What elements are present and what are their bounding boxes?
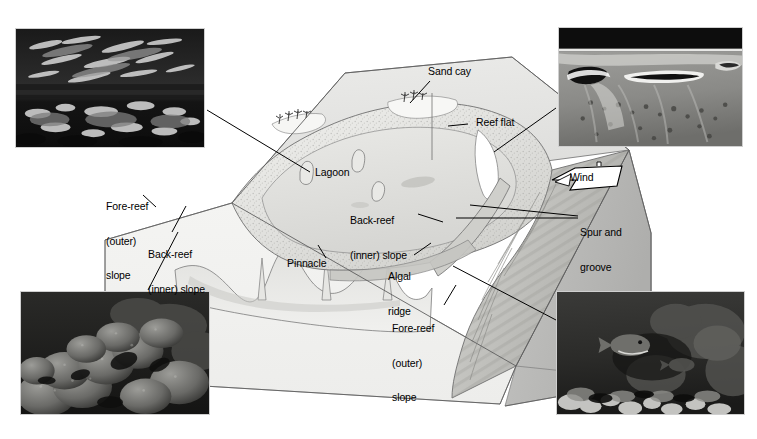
label-line: (outer): [392, 358, 434, 370]
label-wind: Wind: [570, 172, 594, 184]
label-line: (outer): [106, 236, 148, 248]
leader-fore-reef-right: [444, 285, 456, 305]
label-lagoon: Lagoon: [315, 167, 349, 179]
fore-reef-fish-photo-art: [557, 292, 744, 414]
label-pinnacle: Pinnacle: [287, 258, 326, 270]
label-line: Back-reef: [350, 215, 407, 227]
label-line: slope: [106, 270, 148, 282]
label-line: Fore-reef: [106, 201, 148, 213]
label-reef-flat: Reef flat: [476, 117, 514, 129]
label-line: (inner) slope: [148, 284, 205, 296]
label-line: Spur and: [580, 227, 622, 239]
aerial-reef-photo-art: [559, 28, 742, 146]
label-line: Algal: [388, 271, 411, 283]
label-line: Fore-reef: [392, 323, 434, 335]
label-fore-reef-outer-slope-right: Fore-reef (outer) slope: [392, 300, 434, 427]
label-line: Back-reef: [148, 249, 205, 261]
label-spur-and-groove: Spur and groove: [580, 204, 622, 296]
label-line: groove: [580, 262, 622, 274]
aerial-reef-photo[interactable]: [558, 27, 743, 147]
label-fore-reef-outer-slope-left: Fore-reef (outer) slope: [106, 178, 148, 305]
fore-reef-fish-photo[interactable]: [556, 291, 745, 415]
label-line: slope: [392, 392, 434, 404]
reef-block-diagram-figure: Sand cay Reef flat Lagoon Pinnacle Fore-…: [0, 0, 757, 439]
label-back-reef-inner-slope-left: Back-reef (inner) slope: [148, 226, 205, 318]
fore-reef-underwater-photo-art: [16, 29, 204, 147]
label-sand-cay: Sand cay: [428, 66, 471, 78]
fore-reef-underwater-photo[interactable]: [15, 28, 205, 148]
